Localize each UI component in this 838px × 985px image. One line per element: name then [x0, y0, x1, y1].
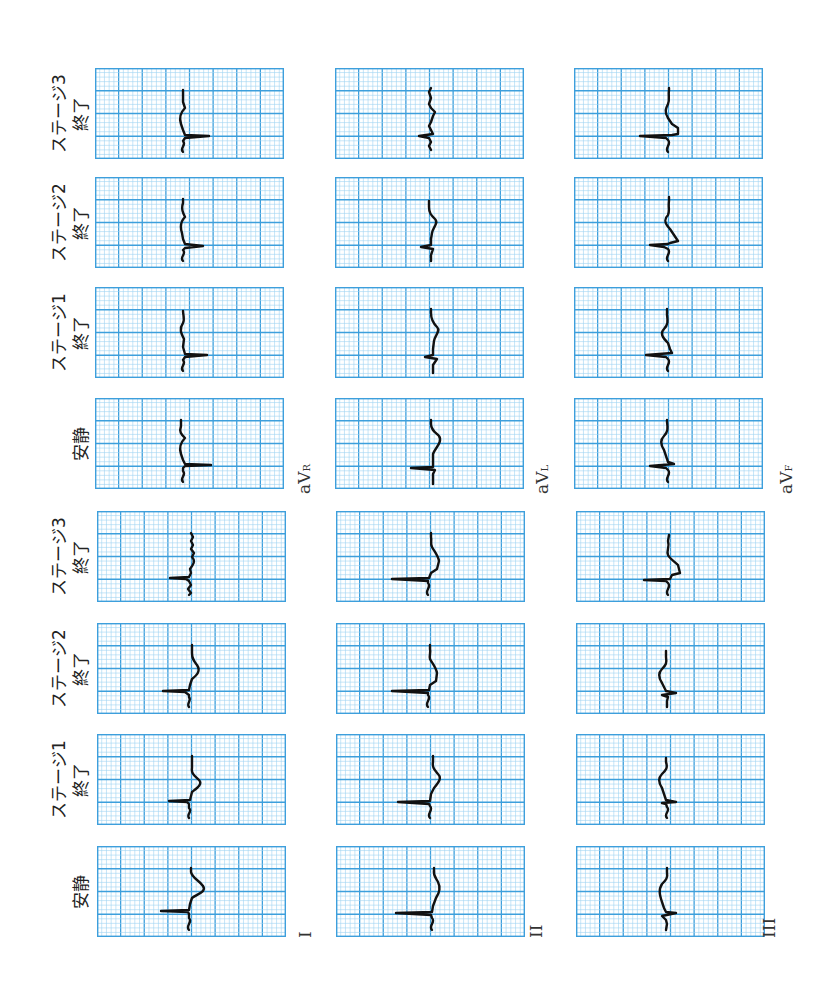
stage-label-rest: 安静 — [70, 398, 92, 489]
ecg-trace — [659, 758, 676, 818]
lead-label-I: I — [295, 931, 315, 938]
ecg-trace — [660, 868, 676, 930]
ecg-trace — [396, 868, 439, 930]
ecg-panel-II-stage2 — [336, 623, 525, 714]
stage-label-line1: ステージ2 — [48, 623, 70, 714]
stage-label-stage3: ステージ3終了 — [48, 68, 92, 159]
ecg-panel-aVL-stage3 — [335, 68, 524, 159]
stage-label-line1: ステージ1 — [48, 287, 70, 378]
ecg-panel-aVF-stage2 — [574, 177, 763, 268]
ecg-panel-aVR-stage2 — [95, 177, 284, 268]
ecg-panel-aVR-stage1 — [95, 287, 284, 378]
ecg-trace — [398, 756, 440, 818]
ecg-trace — [644, 535, 680, 595]
stage-label-line2: 終了 — [70, 511, 92, 602]
stage-label-line2: 終了 — [70, 177, 92, 268]
stage-label-line2: 終了 — [70, 734, 92, 825]
lead-label-text: II — [526, 925, 546, 938]
ecg-panel-I-stage3 — [97, 511, 286, 602]
lead-label-aVF: aVF — [776, 465, 796, 494]
ecg-panel-III-stage2 — [576, 623, 765, 714]
ecg-panel-III-stage1 — [576, 734, 765, 825]
ecg-trace — [181, 311, 207, 371]
stage-label-line2: 終了 — [70, 68, 92, 159]
ecg-panel-II-rest — [336, 846, 525, 937]
lead-label-aVL: aVL — [532, 465, 552, 494]
lead-label-aVR: aVR — [294, 464, 314, 494]
lead-label-subscript: L — [539, 465, 550, 472]
lead-label-text: III — [759, 918, 779, 938]
lead-label-text: aV — [294, 472, 314, 494]
lead-label-subscript: F — [783, 465, 794, 472]
ecg-panel-III-rest — [576, 846, 765, 937]
ecg-panel-III-stage3 — [576, 511, 765, 602]
ecg-panel-I-rest — [97, 846, 286, 937]
ecg-panel-aVF-stage1 — [574, 287, 763, 378]
lead-label-text: aV — [532, 472, 552, 494]
stage-label-line1: ステージ1 — [48, 734, 70, 825]
ecg-trace — [650, 420, 674, 482]
lead-label-II: II — [526, 925, 546, 938]
ecg-panel-I-stage2 — [97, 623, 286, 714]
stage-label-stage1: ステージ1終了 — [48, 734, 92, 825]
stage-label-line1: 安静 — [70, 398, 92, 489]
stage-label-stage3: ステージ3終了 — [48, 511, 92, 602]
ecg-trace — [169, 756, 200, 818]
ecg-panel-aVR-stage3 — [95, 68, 284, 159]
stage-label-stage2: ステージ2終了 — [48, 177, 92, 268]
stage-label-line2: 終了 — [70, 623, 92, 714]
stage-label-rest: 安静 — [70, 846, 92, 937]
stage-label-stage2: ステージ2終了 — [48, 623, 92, 714]
ecg-trace — [181, 199, 203, 261]
stage-label-line1: ステージ2 — [48, 177, 70, 268]
ecg-trace — [392, 533, 439, 595]
ecg-panel-aVL-stage2 — [335, 177, 524, 268]
lead-label-subscript: R — [301, 464, 312, 472]
stage-label-line1: ステージ3 — [48, 68, 70, 159]
ecg-panel-II-stage3 — [336, 511, 525, 602]
ecg-panel-aVL-stage1 — [335, 287, 524, 378]
stage-label-stage1: ステージ1終了 — [48, 287, 92, 378]
stage-label-line2: 終了 — [70, 287, 92, 378]
stage-label-line1: 安静 — [70, 846, 92, 937]
ecg-panel-I-stage1 — [97, 734, 286, 825]
ecg-panel-aVF-rest — [574, 398, 763, 489]
lead-label-text: I — [295, 931, 315, 938]
stage-label-line1: ステージ3 — [48, 511, 70, 602]
lead-label-III: III — [759, 918, 779, 938]
ecg-panel-aVL-rest — [335, 398, 524, 489]
ecg-panel-II-stage1 — [336, 734, 525, 825]
ecg-panel-aVF-stage3 — [574, 68, 763, 159]
ecg-panel-aVR-rest — [95, 398, 284, 489]
lead-label-text: aV — [776, 472, 796, 494]
